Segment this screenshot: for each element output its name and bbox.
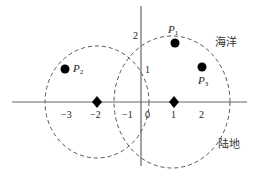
center-diamond-left xyxy=(92,96,102,108)
x-tick-label: −2 xyxy=(90,109,101,120)
x-tick-label: 1 xyxy=(171,109,176,120)
point-p3 xyxy=(198,63,207,72)
y-tick-label: 1 xyxy=(145,64,150,75)
x-tick-label: −3 xyxy=(61,109,72,120)
x-tick-label: −1 xyxy=(122,109,133,120)
region-label-sea: 海洋 xyxy=(215,35,237,49)
point-label-p2: P2 xyxy=(72,62,84,76)
y-tick-label: 2 xyxy=(133,30,138,41)
point-p2 xyxy=(61,65,70,74)
point-label-p3: P3 xyxy=(197,74,209,88)
x-tick-label: 2 xyxy=(199,109,204,120)
region-label-land: 陆地 xyxy=(218,137,240,151)
point-p1 xyxy=(171,39,180,48)
x-tick-label: 0 xyxy=(145,109,150,120)
diagram-canvas: −3 −2 −1 0 1 2 1 2 P1 P2 P3 海洋 陆地 xyxy=(0,0,257,173)
point-label-p1: P1 xyxy=(167,23,179,37)
center-diamond-right xyxy=(169,96,179,108)
